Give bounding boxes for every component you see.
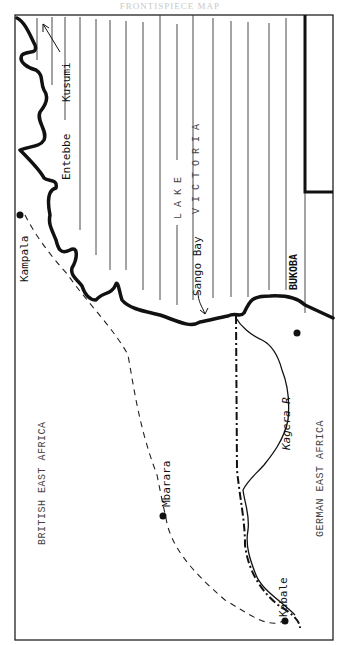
label-british-east-africa: BRITISH EAST AFRICA <box>37 421 48 545</box>
kusumi-arrow <box>43 24 60 52</box>
kagera-river <box>236 318 295 615</box>
label-sango-bay: Sango Bay <box>191 236 204 296</box>
town-dot-kabale <box>282 618 289 625</box>
border-line <box>236 316 300 628</box>
label-kabale: Kabale <box>277 577 290 617</box>
border-box <box>305 15 333 192</box>
label-german-east-africa: GERMAN EAST AFRICA <box>315 420 326 537</box>
label-mbarara: Mbarara <box>160 461 173 507</box>
label-entebbe: Entebbe <box>60 134 73 180</box>
town-dot-mbarara <box>160 513 167 520</box>
label-kusumi: Kusumi <box>60 62 73 102</box>
lake-hatching <box>37 15 305 313</box>
label-kampala: Kampala <box>18 236 31 282</box>
route-line <box>25 215 285 623</box>
map-frame <box>15 15 333 640</box>
map: Kusumi Entebbe Kampala Sango Bay BUKOBA … <box>0 0 340 645</box>
label-kagera-river: Kagera R <box>280 397 293 451</box>
town-dot-kampala <box>17 212 24 219</box>
label-bukoba: BUKOBA <box>288 254 299 290</box>
label-victoria: V I C T O R I A <box>191 124 202 214</box>
town-dot-bukoba <box>294 330 301 337</box>
label-lake: LAKE <box>173 171 184 219</box>
